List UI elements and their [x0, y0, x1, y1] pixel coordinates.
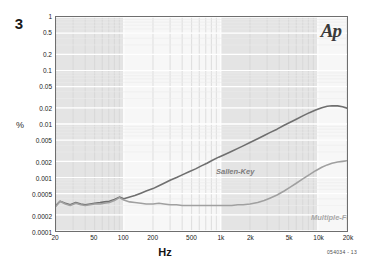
- x-axis-tick: 1k: [217, 234, 224, 241]
- y-axis-tick: 0.002: [6, 158, 52, 165]
- x-axis-tick: 500: [186, 234, 197, 241]
- x-axis-tick: 20: [51, 234, 58, 241]
- x-axis-tick: 50: [90, 234, 97, 241]
- chart-svg: [56, 17, 347, 231]
- curve-label-multiple-feedback: Multiple-Feedback: [311, 213, 348, 222]
- x-axis-tick: 100: [118, 234, 129, 241]
- y-axis-tick: 0.0001: [6, 229, 52, 236]
- y-axis-tick: 0.01: [6, 121, 52, 128]
- y-axis-tick-labels: 10.50.20.10.050.020.010.0050.0020.0010.0…: [3, 16, 52, 232]
- y-axis-tick: 0.05: [6, 83, 52, 90]
- y-axis-tick: 0.001: [6, 175, 52, 182]
- y-axis-tick: 0.005: [6, 137, 52, 144]
- y-axis-tick: 0.2: [6, 50, 52, 57]
- y-axis-tick: 0.1: [6, 67, 52, 74]
- x-axis-title: Hz: [0, 246, 330, 258]
- y-axis-tick: 0.0002: [6, 212, 52, 219]
- x-axis-tick: 200: [147, 234, 158, 241]
- y-axis-tick: 0.5: [6, 29, 52, 36]
- x-axis-tick: 20k: [343, 234, 353, 241]
- x-axis-tick: 2k: [247, 234, 254, 241]
- chart-plot-area: Ap Sallen-Key Multiple-Feedback: [55, 16, 348, 232]
- curve-label-sallen-key: Sallen-Key: [216, 167, 254, 176]
- y-axis-tick: 0.02: [6, 104, 52, 111]
- y-axis-tick: 0.0005: [6, 191, 52, 198]
- x-axis-tick: 10k: [313, 234, 323, 241]
- x-axis-tick: 5k: [286, 234, 293, 241]
- figure-code: 054034 - 13: [327, 249, 357, 255]
- x-axis-tick-labels: 20501002005001k2k5k10k20k: [55, 234, 348, 246]
- figure-panel: 3 % 10.50.20.10.050.020.010.0050.0020.00…: [0, 0, 367, 268]
- audio-precision-logo: Ap: [321, 21, 341, 40]
- y-axis-tick: 1: [6, 13, 52, 20]
